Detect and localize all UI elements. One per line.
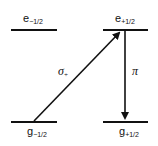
label-sub: −1/2 (33, 131, 47, 138)
label-sub: +1/2 (125, 131, 139, 138)
label-g-minus: g−1/2 (27, 126, 47, 140)
label-sub: −1/2 (29, 18, 43, 25)
label-sub: +1/2 (121, 18, 135, 25)
sigma-transition-arrow (34, 33, 119, 121)
label-sigma-transition: σ+ (58, 64, 68, 79)
label-base: π (132, 64, 138, 78)
label-g-plus: g+1/2 (119, 126, 139, 140)
label-sub: + (64, 71, 68, 79)
label-pi-transition: π (132, 64, 138, 79)
label-e-plus: e+1/2 (115, 13, 135, 27)
label-e-minus: e−1/2 (23, 13, 43, 27)
